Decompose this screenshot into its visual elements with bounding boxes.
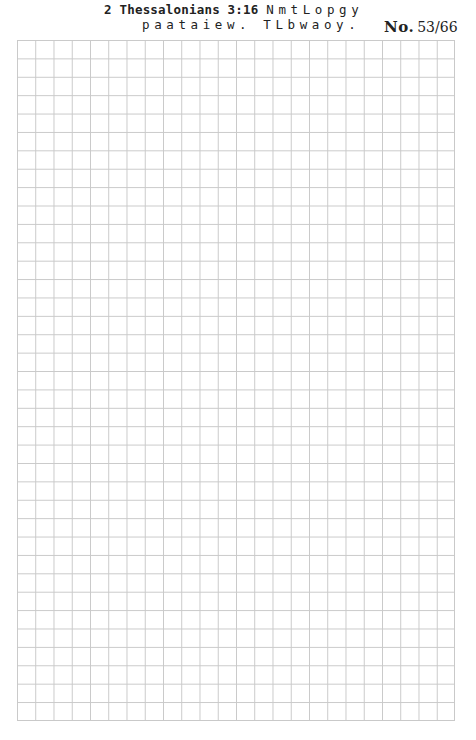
page-header: 2 Thessalonians 3:16 NmtLopgy paataiew. … [0, 0, 476, 40]
page-number-label: No. [384, 18, 414, 36]
title-line-1: 2 Thessalonians 3:16 NmtLopgy [104, 2, 363, 17]
graph-paper-grid [17, 40, 455, 721]
scripture-reference: 2 Thessalonians 3:16 [104, 2, 259, 17]
page-number: No.53/66 [384, 18, 458, 36]
cipher-text-1: NmtLopgy [266, 2, 363, 17]
cipher-text-2: paataiew. TLbwaoy. [142, 17, 360, 32]
page-number-value: 53/66 [417, 19, 457, 35]
